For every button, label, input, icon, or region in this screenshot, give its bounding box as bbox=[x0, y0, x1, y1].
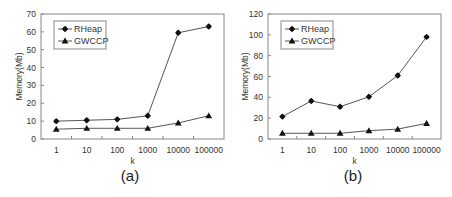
x-axis-label: k bbox=[352, 156, 357, 166]
legend-marker-diamond-icon-core bbox=[290, 27, 294, 31]
y-axis-label: Memory(Mb) bbox=[240, 52, 250, 100]
x-tick-label: 1 bbox=[54, 145, 59, 155]
data-point-rheap-core bbox=[424, 35, 428, 39]
y-tick-label: 40 bbox=[254, 92, 264, 102]
y-tick-label: 10 bbox=[27, 116, 37, 126]
legend-label: RHeap bbox=[74, 24, 102, 34]
legend: RHeapGWCCP bbox=[54, 21, 109, 49]
y-tick-label: 20 bbox=[27, 98, 37, 108]
data-point-rheap-core bbox=[207, 24, 211, 28]
x-tick-label: 100000 bbox=[412, 145, 441, 155]
y-tick-label: 0 bbox=[258, 134, 263, 144]
y-tick-label: 120 bbox=[249, 9, 263, 19]
x-tick-label: 1 bbox=[280, 145, 285, 155]
x-tick-label: 10000 bbox=[166, 145, 190, 155]
x-axis-label: k bbox=[130, 156, 135, 166]
legend: RHeapGWCCP bbox=[281, 21, 336, 49]
series-line-gwccp bbox=[282, 123, 426, 133]
series-gwccp bbox=[279, 120, 430, 136]
y-tick-label: 30 bbox=[27, 80, 37, 90]
legend-label: GWCCP bbox=[301, 36, 336, 46]
data-point-rheap-core bbox=[146, 114, 150, 118]
data-point-rheap-core bbox=[176, 31, 180, 35]
x-tick-label: 1000 bbox=[359, 145, 378, 155]
y-tick-label: 50 bbox=[27, 45, 37, 55]
legend-label: GWCCP bbox=[74, 36, 109, 46]
y-tick-label: 100 bbox=[249, 30, 263, 40]
legend-marker-diamond-icon-core bbox=[63, 27, 67, 31]
figure: 010203040506070110100100010000100000kMem… bbox=[0, 0, 452, 197]
y-axis-label: Memory(Mb) bbox=[14, 52, 24, 100]
series-gwccp bbox=[53, 112, 212, 131]
y-tick-label: 60 bbox=[27, 27, 37, 37]
data-point-gwccp bbox=[205, 112, 212, 118]
x-tick-label: 100 bbox=[333, 145, 347, 155]
data-point-rheap-core bbox=[367, 95, 371, 99]
chart-panel-b: 020406080100120110100100010000100000kMem… bbox=[240, 9, 441, 184]
y-tick-label: 0 bbox=[31, 134, 36, 144]
chart-caption: (a) bbox=[121, 167, 139, 184]
data-point-rheap-core bbox=[115, 117, 119, 121]
y-tick-label: 80 bbox=[254, 51, 264, 61]
x-tick-label: 10000 bbox=[386, 145, 410, 155]
data-point-rheap-core bbox=[85, 118, 89, 122]
x-tick-label: 10 bbox=[82, 145, 92, 155]
chart-caption: (b) bbox=[344, 167, 362, 184]
data-point-rheap-core bbox=[338, 105, 342, 109]
data-point-rheap-core bbox=[396, 73, 400, 77]
data-point-rheap-core bbox=[54, 119, 58, 123]
y-tick-label: 60 bbox=[254, 72, 264, 82]
x-tick-label: 1000 bbox=[138, 145, 157, 155]
chart-panel-a: 010203040506070110100100010000100000kMem… bbox=[14, 9, 224, 184]
x-tick-label: 10 bbox=[307, 145, 317, 155]
y-tick-label: 40 bbox=[27, 63, 37, 73]
x-tick-label: 100 bbox=[110, 145, 124, 155]
legend-label: RHeap bbox=[301, 24, 329, 34]
data-point-gwccp bbox=[423, 120, 430, 126]
y-tick-label: 20 bbox=[254, 113, 264, 123]
y-tick-label: 70 bbox=[27, 9, 37, 19]
data-point-rheap-core bbox=[309, 99, 313, 103]
x-tick-label: 100000 bbox=[195, 145, 224, 155]
data-point-rheap-core bbox=[280, 114, 284, 118]
